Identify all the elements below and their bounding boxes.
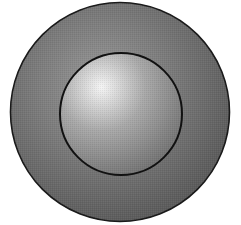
concentric-circles-diagram [0, 0, 241, 225]
inner-circle [60, 53, 182, 175]
